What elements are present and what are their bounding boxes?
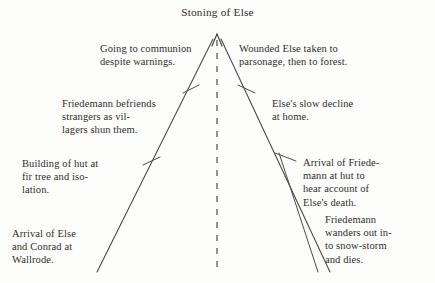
tick-mark-right-lower (275, 153, 296, 161)
tick-mark-left-lower (143, 157, 160, 165)
label-arrival-of-else-and-conrad: Arrival of Else and Conrad at Wallrode. (12, 227, 112, 267)
label-arrival-of-friedemann: Arrival of Friede- mann at hut to hear a… (303, 156, 413, 209)
tick-mark-right-upper (238, 85, 255, 93)
rising-action-line (97, 39, 213, 272)
label-wounded-else-taken: Wounded Else taken to parsonage, then to… (239, 42, 369, 68)
label-friedemann-wanders-out: Friedemann wanders out in- to snow-storm… (325, 213, 431, 266)
diagram-title: Stoning of Else (0, 5, 435, 19)
diagram-page: Stoning of Else Going to communion despi… (0, 0, 435, 283)
label-building-of-hut: Building of hut at fir tree and iso- lat… (22, 157, 122, 197)
label-going-to-communion: Going to communion despite warnings. (100, 42, 208, 68)
tick-mark-left-upper (183, 85, 199, 93)
label-friedemann-befriends: Friedemann befriends strangers as vil- l… (62, 97, 170, 137)
label-elses-slow-decline: Else's slow decline at home. (272, 97, 382, 123)
